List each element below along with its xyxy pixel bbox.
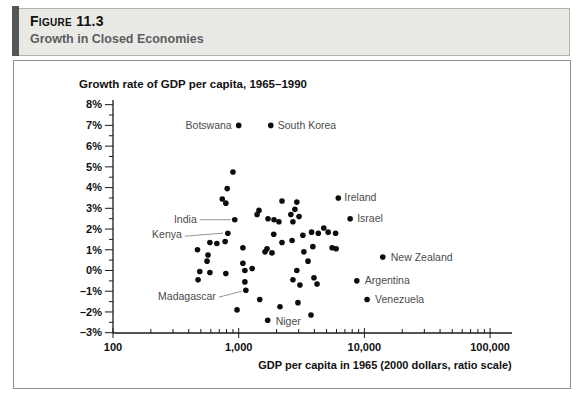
data-point (243, 287, 249, 293)
y-tick-label: 7% (86, 119, 102, 131)
scatter-chart: 8%7%6%5%4%3%2%1%0%–1%–2%–3%1001,00010,00… (0, 0, 582, 401)
data-point (347, 216, 353, 222)
data-point (311, 275, 317, 281)
country-label: Madagascar (158, 290, 216, 302)
data-point (309, 229, 315, 235)
data-point (271, 231, 277, 237)
y-tick-label: 5% (86, 161, 102, 173)
data-point (195, 277, 201, 283)
data-point (254, 212, 260, 218)
data-point (380, 254, 386, 260)
data-point (265, 216, 271, 222)
country-label: Israel (357, 212, 383, 224)
data-point (289, 238, 295, 244)
data-point (301, 249, 307, 255)
x-tick-label: 1,000 (225, 341, 253, 353)
data-point (294, 268, 300, 274)
y-tick-label: 0% (86, 264, 102, 276)
data-point (271, 217, 277, 223)
data-point (333, 230, 339, 236)
data-point (207, 240, 213, 246)
y-tick-label: 8% (86, 98, 102, 110)
label-leader-line (185, 233, 223, 236)
y-tick-label: 4% (86, 181, 102, 193)
data-point (249, 266, 255, 272)
data-point (310, 244, 316, 250)
country-label: Kenya (152, 228, 182, 240)
data-point (336, 195, 342, 201)
data-point (205, 252, 211, 258)
data-point (276, 219, 282, 225)
data-point (333, 246, 339, 252)
data-point (297, 282, 303, 288)
data-point (316, 230, 322, 236)
data-point (288, 212, 294, 218)
y-tick-label: 1% (86, 244, 102, 256)
chart-title: Growth rate of GDP per capita, 1965–1990 (79, 78, 307, 90)
data-point (269, 250, 275, 256)
data-point (257, 297, 263, 303)
data-point (197, 269, 203, 275)
country-label: Botswana (186, 119, 232, 131)
data-point (305, 258, 311, 264)
y-tick-label: –1% (80, 285, 102, 297)
data-point (204, 258, 210, 264)
y-tick-label: 3% (86, 202, 102, 214)
data-point (223, 271, 229, 277)
data-point (314, 281, 320, 287)
country-label: Argentina (365, 274, 410, 286)
y-tick-label: 2% (86, 223, 102, 235)
data-point (364, 297, 370, 303)
data-point (222, 239, 228, 245)
data-point (223, 200, 229, 206)
x-axis-title: GDP per capita in 1965 (2000 dollars, ra… (258, 359, 512, 371)
data-point (268, 123, 274, 129)
data-point (234, 307, 240, 313)
data-point (295, 300, 301, 306)
data-point (279, 240, 285, 246)
country-label: Venezuela (375, 293, 424, 305)
data-point (300, 232, 306, 238)
country-label: New Zealand (391, 251, 453, 263)
y-tick-label: 6% (86, 140, 102, 152)
y-tick-label: –2% (80, 306, 102, 318)
country-label: South Korea (278, 119, 337, 131)
data-point (264, 246, 270, 252)
data-point (240, 260, 246, 266)
data-point (195, 247, 201, 253)
figure-11-3: Figure 11.3 Growth in Closed Economies 8… (0, 0, 582, 401)
country-label: India (174, 213, 197, 225)
country-label: Ireland (344, 191, 376, 203)
data-point (224, 186, 230, 192)
data-point (308, 312, 314, 318)
data-point (240, 245, 246, 251)
y-tick-label: –3% (80, 326, 102, 338)
data-point (265, 317, 271, 323)
data-point (290, 219, 296, 225)
data-point (232, 217, 238, 223)
data-point (290, 277, 296, 283)
data-point (277, 304, 283, 310)
data-point (321, 225, 327, 231)
country-label: Niger (276, 315, 302, 327)
x-tick-label: 100,000 (470, 341, 510, 353)
data-point (242, 279, 248, 285)
data-point (296, 214, 302, 220)
label-leader-line (219, 291, 242, 297)
data-point (242, 268, 248, 274)
data-point (354, 278, 360, 284)
data-point (230, 169, 236, 175)
data-point (236, 123, 242, 129)
data-point (294, 199, 300, 205)
data-point (279, 198, 285, 204)
data-point (207, 270, 213, 276)
data-point (225, 230, 231, 236)
data-point (292, 207, 298, 213)
x-tick-label: 10,000 (348, 341, 382, 353)
data-point (325, 229, 331, 235)
x-tick-label: 100 (104, 341, 122, 353)
data-point (214, 241, 220, 247)
